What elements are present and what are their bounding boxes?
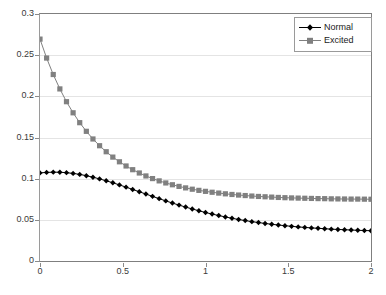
x-tick-label: 0 <box>20 266 60 276</box>
data-point-marker <box>170 200 175 205</box>
data-point-marker <box>57 170 62 175</box>
data-point-marker <box>84 129 89 134</box>
data-point-marker <box>236 192 241 197</box>
data-point-marker <box>44 55 49 60</box>
data-point-marker <box>342 227 347 232</box>
data-point-marker <box>176 202 181 207</box>
y-tick-label: 0.15 <box>0 133 34 142</box>
y-tick-label: 0.3 <box>0 9 34 18</box>
data-point-marker <box>243 193 248 198</box>
data-point-marker <box>262 221 267 226</box>
data-point-marker <box>276 195 281 200</box>
data-point-marker <box>70 171 75 176</box>
data-point-marker <box>150 194 155 199</box>
data-point-marker <box>223 191 228 196</box>
data-point-marker <box>216 190 221 195</box>
legend-item-excited[interactable]: Excited <box>299 34 367 47</box>
y-tick-label: 0.05 <box>0 215 34 224</box>
data-point-marker <box>216 213 221 218</box>
data-point-marker <box>104 178 109 183</box>
data-point-marker <box>309 225 314 230</box>
data-point-marker <box>335 227 340 232</box>
data-point-marker <box>71 110 76 115</box>
x-tick-label: 0.5 <box>103 266 143 276</box>
data-point-marker <box>329 226 334 231</box>
data-point-marker <box>123 163 128 168</box>
data-point-marker <box>84 173 89 178</box>
y-tick-label: 0.1 <box>0 174 34 183</box>
legend-label-normal: Normal <box>321 22 353 33</box>
data-point-marker <box>289 195 294 200</box>
data-point-marker <box>329 196 334 201</box>
x-tick-mark <box>206 263 207 267</box>
data-point-marker <box>176 184 181 189</box>
data-point-marker <box>289 224 294 229</box>
x-axis: 00.511.52 <box>0 266 386 286</box>
legend-item-normal[interactable]: Normal <box>299 21 367 34</box>
y-tick-label: 0.2 <box>0 91 34 100</box>
data-point-marker <box>368 197 371 202</box>
data-point-marker <box>117 159 122 164</box>
data-point-marker <box>77 120 82 125</box>
series-excited <box>40 37 371 202</box>
data-point-marker <box>40 170 43 175</box>
y-axis: 00.050.10.150.20.250.3 <box>0 0 34 295</box>
legend-marker-excited-icon <box>299 35 321 46</box>
data-point-marker <box>90 136 95 141</box>
data-point-marker <box>123 184 128 189</box>
data-point-marker <box>157 178 162 183</box>
data-point-marker <box>97 143 102 148</box>
data-point-marker <box>362 197 367 202</box>
data-point-marker <box>236 217 241 222</box>
x-tick-label: 1 <box>186 266 226 276</box>
data-point-marker <box>190 206 195 211</box>
series-line <box>40 39 371 199</box>
data-point-marker <box>137 189 142 194</box>
data-point-marker <box>44 170 49 175</box>
data-point-marker <box>57 86 62 91</box>
data-point-marker <box>243 218 248 223</box>
data-point-marker <box>183 204 188 209</box>
data-point-marker <box>110 180 115 185</box>
data-point-marker <box>276 222 281 227</box>
data-point-marker <box>256 194 261 199</box>
data-point-marker <box>282 223 287 228</box>
data-point-marker <box>322 226 327 231</box>
data-point-marker <box>203 189 208 194</box>
data-point-marker <box>223 214 228 219</box>
data-point-marker <box>110 155 115 160</box>
data-point-marker <box>143 173 148 178</box>
data-point-marker <box>156 196 161 201</box>
x-tick-mark <box>40 263 41 267</box>
data-point-marker <box>295 224 300 229</box>
data-point-marker <box>196 188 201 193</box>
y-tick-label: 0 <box>0 256 34 265</box>
legend-label-excited: Excited <box>321 35 354 46</box>
legend-marker-normal-icon <box>299 22 321 33</box>
data-point-marker <box>349 196 354 201</box>
data-point-marker <box>269 195 274 200</box>
data-point-marker <box>302 225 307 230</box>
x-tick-mark <box>371 263 372 267</box>
series-line <box>40 172 371 231</box>
data-point-marker <box>130 187 135 192</box>
data-point-marker <box>163 198 168 203</box>
data-point-marker <box>51 72 56 77</box>
series-normal <box>40 169 371 233</box>
data-point-marker <box>315 226 320 231</box>
data-point-marker <box>51 169 56 174</box>
data-point-marker <box>355 228 360 233</box>
data-point-marker <box>40 37 43 42</box>
y-tick-label: 0.25 <box>0 50 34 59</box>
data-point-marker <box>348 227 353 232</box>
data-point-marker <box>309 196 314 201</box>
data-point-marker <box>282 195 287 200</box>
data-point-marker <box>229 192 234 197</box>
data-point-marker <box>77 172 82 177</box>
data-point-marker <box>368 228 371 233</box>
x-tick-label: 2 <box>351 266 386 276</box>
data-point-marker <box>315 196 320 201</box>
data-point-marker <box>150 176 155 181</box>
data-point-marker <box>183 185 188 190</box>
data-point-marker <box>163 180 168 185</box>
